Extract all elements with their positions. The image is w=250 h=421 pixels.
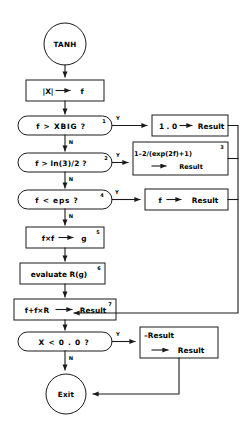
node-exit: Exit [46,374,86,414]
branch-label-yes-eps: Y [114,189,119,195]
branch-label-yes-ln32: Y [115,152,120,158]
node-decision-eps: f < eps ? 4 [18,190,112,209]
negate-target: Result [178,346,205,355]
result-one-value: 1 . 0 [159,122,177,131]
decision-negative-label: X < 0 . 0 ? [39,338,90,347]
node-decision-ln32: f > ln(3)/2 ? 2 [18,153,112,172]
result-exp-expression: 1–2/(exp(2f)+1) [134,150,192,158]
evaluate-r-label: evaluate R(g) [31,270,87,279]
decision-ln32-note: 2 [104,155,108,161]
branch-label-no-xbig: N [69,139,73,145]
branch-label-no-ln32: N [69,176,73,182]
negate-expression: –Result [144,331,175,340]
square-target: g [81,234,86,243]
return-path-negate-to-exit [93,358,179,394]
flowchart-canvas: TANH |X| f f > XBIG ? 1 Y N 1 . 0 Result [0,0,250,421]
node-evaluate-r: evaluate R(g) 6 [20,263,105,284]
result-f-target: Result [192,196,219,205]
decision-ln32-label: f > ln(3)/2 ? [35,159,87,168]
result-exp-target: Result [179,163,203,171]
node-abs-assign: |X| f [26,80,104,101]
square-note: 5 [96,229,100,235]
node-result-one: 1 . 0 Result [152,115,228,136]
branch-label-yes-xbig: Y [115,115,120,121]
abs-label: |X| [42,87,53,96]
node-combine: f+f×R Result 7 [14,299,116,320]
decision-xbig-label: f > XBIG ? [36,122,86,131]
branch-label-no-negative: N [69,355,73,361]
node-decision-negative: X < 0 . 0 ? [18,332,112,351]
decision-xbig-note: 1 [102,118,106,124]
evaluate-r-note: 6 [97,265,101,271]
branch-label-yes-negative: Y [115,331,120,337]
node-result-exp: 1–2/(exp(2f)+1) 3 Result [133,142,228,175]
node-start-tanh: TANH [44,23,86,65]
combine-expression: f+f×R [25,306,50,315]
node-negate: –Result Result [140,327,218,358]
combine-target: Result [80,306,107,315]
exit-label: Exit [58,390,75,399]
node-result-f: f Result [145,189,228,210]
square-expression: f×f [42,234,55,243]
flowchart-diagram: TANH |X| f f > XBIG ? 1 Y N 1 . 0 Result [0,0,250,421]
node-square: f×f g 5 [26,227,104,248]
decision-eps-note: 4 [100,192,104,198]
result-one-target: Result [198,122,225,131]
decision-eps-label: f < eps ? [35,196,78,205]
combine-note: 7 [108,301,112,307]
branch-label-no-eps: N [69,213,73,219]
start-label: TANH [53,40,76,49]
node-decision-xbig: f > XBIG ? 1 [18,116,112,135]
result-exp-note: 3 [220,144,224,150]
